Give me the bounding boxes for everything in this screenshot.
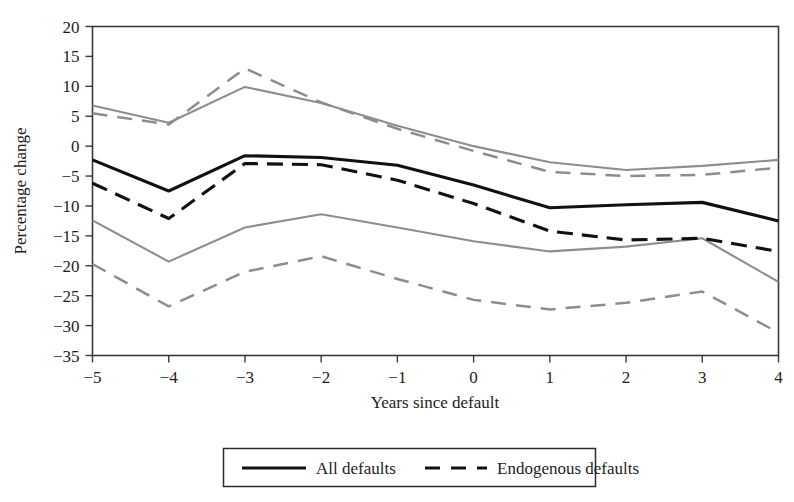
y-tick-label: −20 <box>53 257 80 276</box>
series-endogenous-defaults-upper-ci <box>93 68 779 176</box>
y-axis-tickmarks <box>86 27 93 356</box>
x-tick-label: 1 <box>546 368 555 387</box>
x-tick-label: 2 <box>622 368 631 387</box>
x-axis-tick-labels: −5−4−3−2−101234 <box>83 368 783 387</box>
y-axis-title: Percentage change <box>11 128 30 255</box>
x-tick-label: −3 <box>236 368 254 387</box>
x-axis-title: Years since default <box>371 393 500 412</box>
x-axis-tickmarks <box>93 356 779 363</box>
y-tick-label: 15 <box>63 47 80 66</box>
y-tick-label: −25 <box>53 287 80 306</box>
y-tick-label: 5 <box>71 107 80 126</box>
y-tick-label: −30 <box>53 317 80 336</box>
series-endogenous-defaults-lower-ci <box>93 256 779 333</box>
x-tick-label: −1 <box>388 368 406 387</box>
series-all-defaults <box>93 156 779 221</box>
y-tick-label: −5 <box>61 167 79 186</box>
legend-label-endogenous-defaults: Endogenous defaults <box>497 459 639 478</box>
x-tick-label: 3 <box>698 368 707 387</box>
chart-legend: All defaults Endogenous defaults <box>224 449 640 487</box>
x-tick-label: 4 <box>774 368 783 387</box>
y-tick-label: −15 <box>53 227 80 246</box>
legend-label-all-defaults: All defaults <box>316 459 396 478</box>
y-tick-label: −35 <box>53 347 80 366</box>
x-tick-label: −5 <box>83 368 101 387</box>
x-tick-label: −2 <box>312 368 330 387</box>
y-axis-tick-labels: 20151050−5−10−15−20−25−30−35 <box>53 18 80 366</box>
x-tick-label: −4 <box>160 368 179 387</box>
y-tick-label: 20 <box>63 18 80 37</box>
y-tick-label: 10 <box>63 77 80 96</box>
y-tick-label: −10 <box>53 197 80 216</box>
x-tick-label: 0 <box>469 368 478 387</box>
series-all-defaults-upper-ci <box>93 87 779 170</box>
series-all-defaults-lower-ci <box>93 214 779 282</box>
figure-canvas: 20151050−5−10−15−20−25−30−35 −5−4−3−2−10… <box>0 0 794 502</box>
y-tick-label: 0 <box>71 137 80 156</box>
plot-frame <box>93 27 779 356</box>
data-series-layer <box>93 68 779 332</box>
